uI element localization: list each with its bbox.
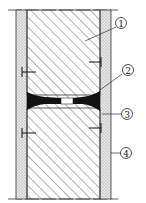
callout-3-label: 3 (124, 110, 130, 120)
callout-3: 3 (122, 109, 133, 120)
callout-2-label: 2 (125, 66, 131, 76)
callout-2: 2 (123, 65, 134, 76)
wall-section-drawing: 1 2 3 4 (0, 0, 146, 203)
right-render-layer (100, 10, 111, 199)
lower-wall-panel (27, 108, 100, 199)
upper-wall-panel (27, 10, 100, 95)
callout-4: 4 (121, 148, 132, 159)
left-render-layer (16, 10, 27, 199)
callout-1: 1 (116, 18, 127, 29)
callout-4-label: 4 (123, 149, 129, 159)
joint-backing-rod (61, 98, 73, 104)
callout-1-label: 1 (118, 19, 124, 29)
